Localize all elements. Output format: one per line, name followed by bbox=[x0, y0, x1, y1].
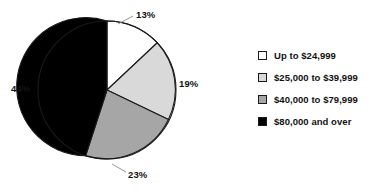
legend-swatch-40000-to-79999 bbox=[258, 95, 267, 104]
pie-svg bbox=[0, 0, 230, 193]
slice-value-label-40000-to-79999: 23% bbox=[128, 169, 147, 180]
legend: Up to $24,999 $25,000 to $39,999 $40,000… bbox=[258, 44, 378, 132]
legend-label-80000-and-over: $80,000 and over bbox=[274, 116, 351, 127]
legend-swatch-80000-and-over bbox=[258, 117, 267, 126]
legend-label-40000-to-79999: $40,000 to $79,999 bbox=[274, 94, 358, 105]
legend-item-25000-to-39999[interactable]: $25,000 to $39,999 bbox=[258, 66, 378, 88]
legend-swatch-up-to-24999 bbox=[258, 51, 267, 60]
legend-label-25000-to-39999: $25,000 to $39,999 bbox=[274, 72, 358, 83]
slice-value-label-80000-and-over: 44% bbox=[11, 83, 30, 94]
legend-swatch-25000-to-39999 bbox=[258, 73, 267, 82]
legend-item-40000-to-79999[interactable]: $40,000 to $79,999 bbox=[258, 88, 378, 110]
legend-label-up-to-24999: Up to $24,999 bbox=[274, 50, 336, 61]
legend-item-up-to-24999[interactable]: Up to $24,999 bbox=[258, 44, 378, 66]
slice-value-label-25000-to-39999: 19% bbox=[179, 78, 198, 89]
leader-line-13 bbox=[118, 16, 133, 24]
pie-chart-figure: 13% 19% 23% 44% Up to $24,999 $25,000 to… bbox=[0, 0, 379, 193]
legend-item-80000-and-over[interactable]: $80,000 and over bbox=[258, 110, 378, 132]
pie-plot-area: 13% 19% 23% 44% bbox=[0, 0, 230, 193]
slice-value-label-up-to-24999: 13% bbox=[136, 9, 155, 20]
leader-line-23 bbox=[112, 164, 126, 172]
